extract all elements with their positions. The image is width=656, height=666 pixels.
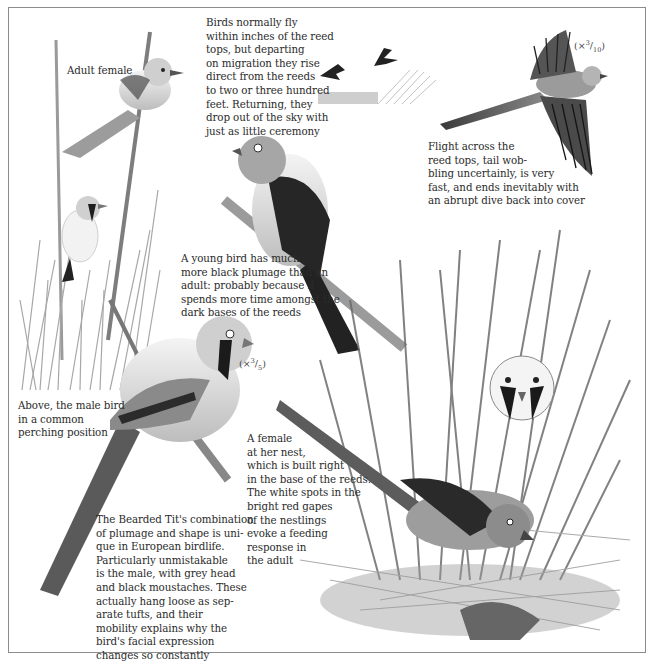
- caption-female-nest: A female at her nest, which is built rig…: [247, 432, 371, 568]
- scale-suffix: ): [262, 358, 266, 369]
- caption-main-text: The Bearded Tit's combination of plumage…: [96, 513, 254, 663]
- scale-prefix: (×: [574, 40, 586, 51]
- scale-suffix: ): [601, 40, 605, 51]
- caption-young-bird: A young bird has much more black plumage…: [181, 252, 340, 320]
- scale-label-male: (×3/5): [239, 357, 266, 372]
- scale-prefix: (×: [239, 358, 251, 369]
- scale-numerator: 3: [251, 357, 255, 365]
- caption-migration: Birds normally fly within inches of the …: [206, 16, 334, 138]
- scale-numerator: 3: [586, 39, 590, 47]
- caption-flight: Flight across the reed tops, tail wob- b…: [428, 140, 585, 208]
- scale-label-flight: (×3/10): [574, 39, 605, 54]
- caption-male-perching: Above, the male bird in a common perchin…: [18, 399, 125, 440]
- caption-adult-female: Adult female: [67, 64, 132, 78]
- adult-female-illustration: [56, 32, 184, 360]
- migrating-birds-illustration: [318, 48, 436, 104]
- young-bird-illustration: [224, 136, 404, 354]
